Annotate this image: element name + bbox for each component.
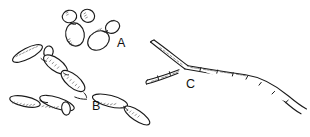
panel-label-c: C bbox=[186, 77, 195, 91]
fungal-morphology-illustration: A bbox=[0, 0, 310, 137]
panel-label-a: A bbox=[117, 36, 126, 50]
panel-label-b: B bbox=[92, 99, 101, 113]
figure-container: A bbox=[0, 0, 310, 137]
figure-background bbox=[0, 0, 310, 137]
